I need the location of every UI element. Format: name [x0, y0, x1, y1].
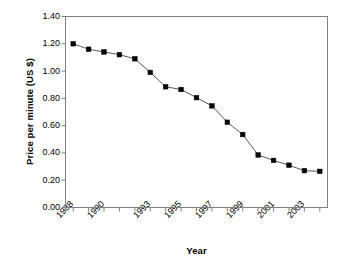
data-point-marker [225, 120, 230, 125]
data-point-marker [163, 84, 168, 89]
data-point-marker [194, 95, 199, 100]
data-point-marker [256, 153, 261, 158]
data-point-marker [302, 168, 307, 173]
data-line [73, 44, 320, 172]
data-point-marker [271, 158, 276, 163]
data-point-marker [86, 47, 91, 52]
data-point-marker [210, 104, 215, 109]
axes-frame [66, 17, 328, 208]
data-line-path [73, 44, 320, 172]
data-point-marker [240, 132, 245, 137]
data-point-marker [287, 163, 292, 168]
data-markers [71, 41, 322, 173]
chart-figure: Price per minute (US $) 0.000.200.400.60… [0, 0, 344, 266]
data-point-marker [179, 87, 184, 92]
data-point-marker [148, 70, 153, 75]
x-axis-title: Year [65, 245, 328, 256]
data-point-marker [102, 50, 107, 55]
plot-area [0, 0, 344, 266]
data-point-marker [71, 41, 76, 46]
data-point-marker [317, 169, 322, 174]
data-point-marker [133, 56, 138, 61]
data-point-marker [117, 52, 122, 57]
plot-frame [66, 17, 328, 208]
axis-ticks [62, 17, 320, 212]
